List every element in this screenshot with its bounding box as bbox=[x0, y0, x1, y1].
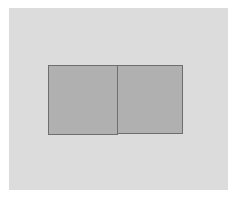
right-rectangle bbox=[117, 65, 183, 134]
left-rectangle bbox=[48, 65, 118, 135]
drawing-canvas bbox=[9, 8, 228, 190]
